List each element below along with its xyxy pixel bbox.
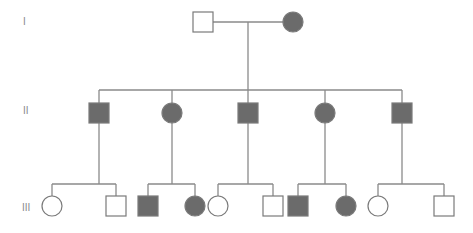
unaffected-male-square-icon (193, 12, 213, 32)
affected-female-circle-icon (162, 103, 182, 123)
affected-male-square-icon (238, 103, 258, 123)
generation-label-3: III (22, 202, 30, 213)
generation-label-2: II (23, 105, 29, 116)
affected-male-square-icon (138, 196, 158, 216)
affected-male-square-icon (288, 196, 308, 216)
unaffected-male-square-icon (106, 196, 126, 216)
unaffected-male-square-icon (434, 196, 454, 216)
unaffected-female-circle-icon (368, 196, 388, 216)
unaffected-female-circle-icon (42, 196, 62, 216)
affected-female-circle-icon (315, 103, 335, 123)
generation-label-1: I (23, 16, 26, 27)
affected-female-circle-icon (336, 196, 356, 216)
pedigree-diagram: I II III (0, 0, 473, 233)
unaffected-male-square-icon (263, 196, 283, 216)
unaffected-female-circle-icon (208, 196, 228, 216)
affected-female-circle-icon (185, 196, 205, 216)
affected-female-circle-icon (283, 12, 303, 32)
affected-male-square-icon (89, 103, 109, 123)
affected-male-square-icon (392, 103, 412, 123)
